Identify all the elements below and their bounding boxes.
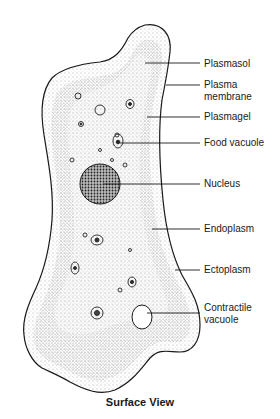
diagram-caption: Surface View bbox=[0, 396, 280, 408]
label-ectoplasm: Ectoplasm bbox=[204, 264, 251, 276]
label-plasmasol: Plasmasol bbox=[204, 58, 250, 70]
label-food-vacuole: Food vacuole bbox=[204, 137, 264, 149]
label-endoplasm: Endoplasm bbox=[204, 223, 254, 235]
label-contractile-vacuole: Contractile vacuole bbox=[204, 302, 252, 326]
label-plasma-membrane: Plasma membrane bbox=[204, 79, 252, 103]
label-plasmagel: Plasmagel bbox=[204, 111, 251, 123]
contractile-vacuole bbox=[132, 305, 152, 329]
label-nucleus: Nucleus bbox=[204, 178, 240, 190]
